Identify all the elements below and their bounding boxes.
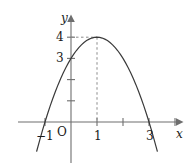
y-axis-label: y <box>61 12 68 24</box>
parabola-graph-figure: y x O −11334 <box>0 0 192 168</box>
x-tick-label: 1 <box>94 130 102 142</box>
x-axis <box>18 118 184 126</box>
x-axis-label: x <box>176 128 183 140</box>
x-axis-arrowhead <box>176 118 184 126</box>
y-tick-label: 3 <box>56 52 64 64</box>
x-tick-label: −1 <box>36 130 54 142</box>
y-axis-arrowhead <box>67 15 75 23</box>
y-tick-label: 4 <box>56 31 64 43</box>
origin-label: O <box>57 126 67 138</box>
x-tick-label: 3 <box>146 130 154 142</box>
